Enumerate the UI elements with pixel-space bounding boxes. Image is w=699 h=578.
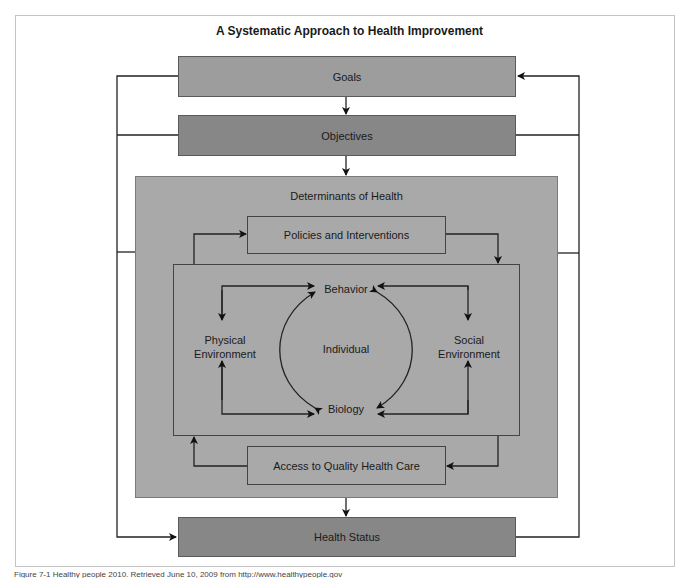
social-environment-line2: Environment xyxy=(424,347,514,361)
physical-environment-line2: Environment xyxy=(180,347,270,361)
goals-label: Goals xyxy=(333,71,362,83)
objectives-label: Objectives xyxy=(321,130,372,142)
physical-environment-line1: Physical xyxy=(180,333,270,347)
figure-caption: Figure 7-1 Healthy people 2010. Retrieve… xyxy=(14,570,342,578)
social-environment-line1: Social xyxy=(424,333,514,347)
determinants-of-health-label: Determinants of Health xyxy=(135,190,558,202)
policies-box: Policies and Interventions xyxy=(247,216,446,254)
physical-environment-label: Physical Environment xyxy=(180,333,270,361)
individual-label: Individual xyxy=(306,342,386,356)
policies-label: Policies and Interventions xyxy=(284,229,409,241)
diagram-title: A Systematic Approach to Health Improvem… xyxy=(0,24,699,38)
access-label: Access to Quality Health Care xyxy=(273,460,420,472)
social-environment-label: Social Environment xyxy=(424,333,514,361)
health-status-label: Health Status xyxy=(314,531,380,543)
behavior-label: Behavior xyxy=(306,282,386,296)
objectives-box: Objectives xyxy=(178,115,516,156)
access-box: Access to Quality Health Care xyxy=(247,446,446,485)
health-status-box: Health Status xyxy=(178,517,516,557)
goals-box: Goals xyxy=(178,56,516,97)
biology-label: Biology xyxy=(306,402,386,416)
